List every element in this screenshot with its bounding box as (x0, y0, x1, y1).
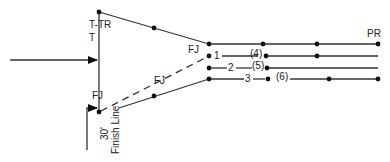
label-finish-line: Finish Line (110, 105, 121, 154)
label-distance: 30' (99, 127, 110, 140)
label-lane-3: 3 (245, 73, 251, 84)
label-lane-1: 1 (214, 50, 220, 61)
label-lane-2: 2 (228, 62, 234, 73)
track-diagram: T-TR T FJ FJ FJ PR 1 2 3 (4) (5) (6) 30'… (0, 0, 390, 162)
finish-arrow (87, 108, 97, 150)
label-lane-4: (4) (250, 48, 262, 59)
label-pr: PR (367, 28, 381, 39)
label-lane-6: (6) (276, 71, 288, 82)
label-fj-bottom: FJ (92, 90, 103, 101)
node-dots (97, 10, 381, 115)
label-fj-mid: FJ (154, 75, 165, 86)
label-lane-5: (5) (252, 60, 264, 71)
label-t-tr: T-TR (89, 19, 111, 30)
label-t: T (89, 32, 95, 43)
label-fj-top: FJ (188, 44, 199, 55)
